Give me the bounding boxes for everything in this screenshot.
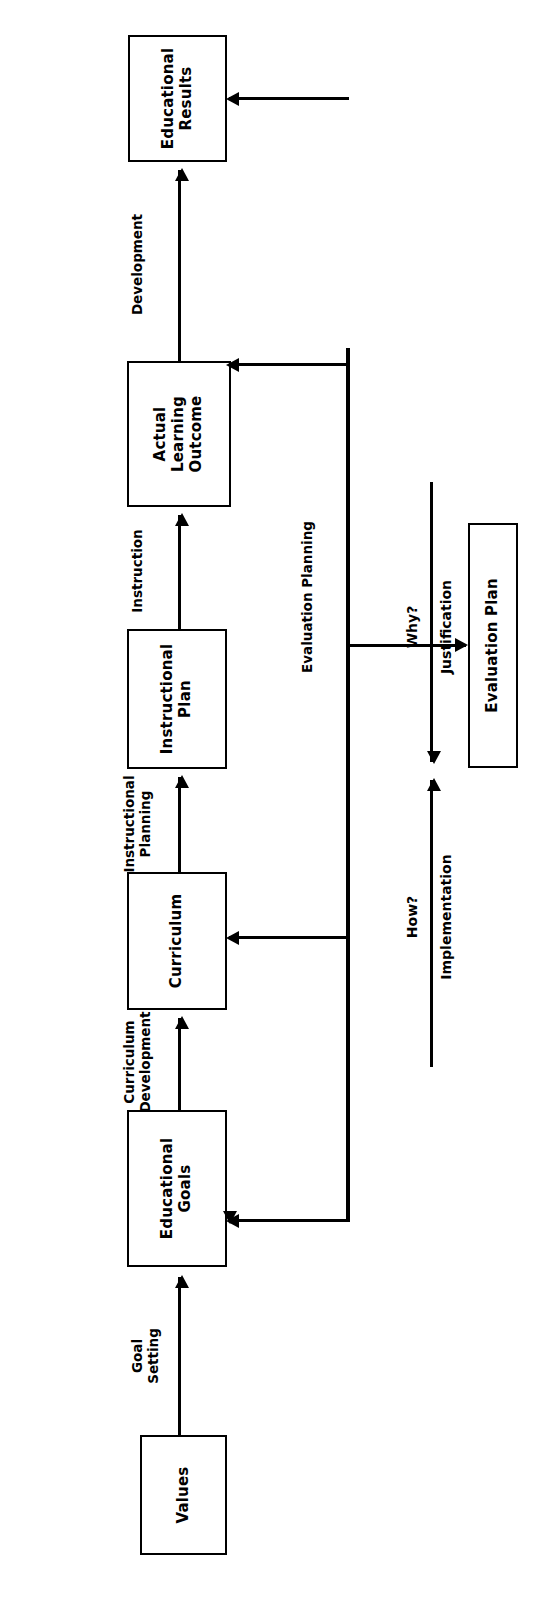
annotation-question-how: How?: [404, 837, 420, 997]
node-actual-learning-outcome-label: Actual Learning Outcome: [152, 396, 205, 473]
edge-label-instruction: Instruction: [130, 507, 146, 635]
arrow-instruction: [178, 515, 181, 629]
node-evaluation-plan[interactable]: Evaluation Plan: [468, 523, 518, 768]
feedback-stub-educational-results: [229, 97, 349, 100]
feedback-arrowhead-curriculum: [226, 931, 239, 945]
feedback-arrowhead-evaluation-plan: [455, 638, 468, 652]
annotation-question-why: Why?: [404, 547, 420, 707]
feedback-bus-label: Evaluation Planning: [300, 467, 316, 727]
node-educational-results-label: Educational Results: [160, 48, 195, 149]
node-educational-goals-label: Educational Goals: [159, 1138, 194, 1239]
feedback-bus-line: [346, 348, 349, 1222]
arrow-curriculum-development: [178, 1018, 181, 1110]
arrow-instructional-planning: [178, 777, 181, 872]
node-values-label: Values: [175, 1466, 193, 1523]
node-instructional-plan[interactable]: Instructional Plan: [127, 629, 227, 769]
feedback-arrowhead-educational-goals: [226, 1214, 239, 1228]
feedback-stub-educational-goals: [229, 1219, 349, 1222]
node-curriculum-label: Curriculum: [168, 894, 186, 989]
feedback-arrowhead-educational-results: [226, 92, 239, 106]
node-educational-results[interactable]: Educational Results: [128, 35, 227, 162]
feedback-stub-curriculum: [229, 936, 349, 939]
annotation-label-justification: Justification: [438, 537, 454, 717]
arrow-development: [178, 170, 181, 361]
edge-label-instructional-planning: Instructional Planning: [122, 749, 153, 899]
edge-label-development: Development: [130, 172, 146, 357]
diagram-canvas: Values Educational Goals Curriculum Inst…: [0, 0, 541, 1607]
arrow-goal-setting: [178, 1277, 181, 1435]
edge-label-curriculum-development: Curriculum Development: [122, 987, 153, 1137]
annotation-arrow-how: [430, 780, 433, 1067]
node-values[interactable]: Values: [140, 1435, 227, 1555]
annotation-arrow-why: [430, 482, 433, 762]
rotated-diagram-frame: Values Educational Goals Curriculum Inst…: [0, 0, 541, 1607]
annotation-label-implementation: Implementation: [438, 827, 454, 1007]
feedback-arrowhead-actual-outcome: [226, 358, 239, 372]
feedback-stub-actual-outcome: [229, 363, 349, 366]
edge-label-goal-setting: Goal Setting: [130, 1291, 161, 1421]
node-actual-learning-outcome[interactable]: Actual Learning Outcome: [127, 361, 231, 507]
node-instructional-plan-label: Instructional Plan: [159, 644, 194, 755]
node-evaluation-plan-label: Evaluation Plan: [484, 578, 502, 713]
